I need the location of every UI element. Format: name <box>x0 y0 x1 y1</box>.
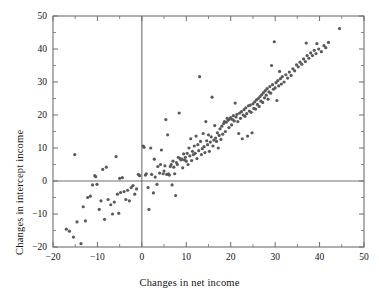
y-tick-label: 40 <box>38 44 48 54</box>
data-point <box>114 155 117 158</box>
data-point <box>246 135 249 138</box>
data-point <box>117 212 120 215</box>
data-point <box>271 83 274 86</box>
data-point <box>202 132 205 135</box>
data-point <box>170 163 173 166</box>
data-point <box>244 106 247 109</box>
data-point <box>199 140 202 143</box>
y-tick-label: 0 <box>42 176 47 186</box>
data-point <box>245 112 248 115</box>
data-point <box>240 110 243 113</box>
data-point <box>265 94 268 97</box>
data-point <box>172 166 175 169</box>
data-point <box>124 198 127 201</box>
data-point <box>146 186 149 189</box>
data-point <box>99 199 102 202</box>
data-point <box>142 146 145 149</box>
data-point <box>95 183 98 186</box>
data-point <box>122 190 125 193</box>
data-point <box>188 154 191 157</box>
data-point <box>278 70 281 73</box>
data-point <box>297 65 300 68</box>
data-point <box>302 57 305 60</box>
data-point <box>206 143 209 146</box>
data-point <box>187 146 190 149</box>
data-point <box>220 125 223 128</box>
data-point <box>73 153 76 156</box>
data-point <box>128 199 131 202</box>
data-point <box>118 177 121 180</box>
data-point <box>196 143 199 146</box>
y-tick-label: 30 <box>38 77 48 87</box>
data-point <box>224 130 227 133</box>
data-point <box>113 201 116 204</box>
data-point <box>180 158 183 161</box>
data-point <box>145 172 148 175</box>
data-point <box>189 137 192 140</box>
data-point <box>277 84 280 87</box>
data-point <box>218 134 221 137</box>
data-point <box>164 118 167 121</box>
data-point <box>276 79 279 82</box>
data-point <box>284 73 287 76</box>
data-point <box>208 150 211 153</box>
data-point <box>307 57 310 60</box>
data-point <box>194 135 197 138</box>
data-point <box>311 54 314 57</box>
data-point <box>156 165 159 168</box>
data-point <box>237 132 240 135</box>
y-tick-label: −10 <box>32 209 47 219</box>
data-point <box>152 191 155 194</box>
data-point <box>166 133 169 136</box>
data-point <box>293 69 296 72</box>
x-tick-label: −20 <box>46 252 61 262</box>
data-point <box>263 96 266 99</box>
data-point <box>282 80 285 83</box>
data-point <box>84 219 87 222</box>
data-point <box>176 163 179 166</box>
data-point <box>94 175 97 178</box>
data-point <box>79 242 82 245</box>
data-point <box>204 120 207 123</box>
data-point <box>147 208 150 211</box>
data-point <box>186 163 189 166</box>
data-point <box>320 50 323 53</box>
data-point <box>218 127 221 130</box>
data-point <box>230 123 233 126</box>
data-point <box>314 52 317 55</box>
data-point <box>250 111 253 114</box>
y-axis-label: Changes in intercept income <box>14 130 25 255</box>
data-point <box>190 159 193 162</box>
data-point <box>184 156 187 159</box>
data-point <box>89 195 92 198</box>
x-axis-label: Changes in net income <box>0 277 379 288</box>
data-point <box>210 135 213 138</box>
x-tick-label: −10 <box>90 252 105 262</box>
data-point <box>105 166 108 169</box>
data-point <box>268 85 271 88</box>
data-point <box>306 54 309 57</box>
data-point <box>131 184 134 187</box>
data-point <box>116 193 119 196</box>
data-point <box>215 140 218 143</box>
data-point <box>126 189 129 192</box>
data-point <box>236 120 239 123</box>
data-point <box>121 176 124 179</box>
data-point <box>217 146 220 149</box>
data-point <box>275 99 278 102</box>
data-point <box>239 117 242 120</box>
data-point <box>273 40 276 43</box>
plot-frame <box>53 16 364 247</box>
data-point <box>135 187 138 190</box>
data-point <box>193 144 196 147</box>
data-point <box>154 175 157 178</box>
data-point <box>158 171 161 174</box>
data-point <box>234 102 237 105</box>
data-point <box>258 105 261 108</box>
data-point <box>211 144 214 147</box>
data-point <box>159 163 162 166</box>
data-point <box>160 148 163 151</box>
data-point <box>203 151 206 154</box>
data-point <box>233 119 236 122</box>
data-point <box>72 236 75 239</box>
